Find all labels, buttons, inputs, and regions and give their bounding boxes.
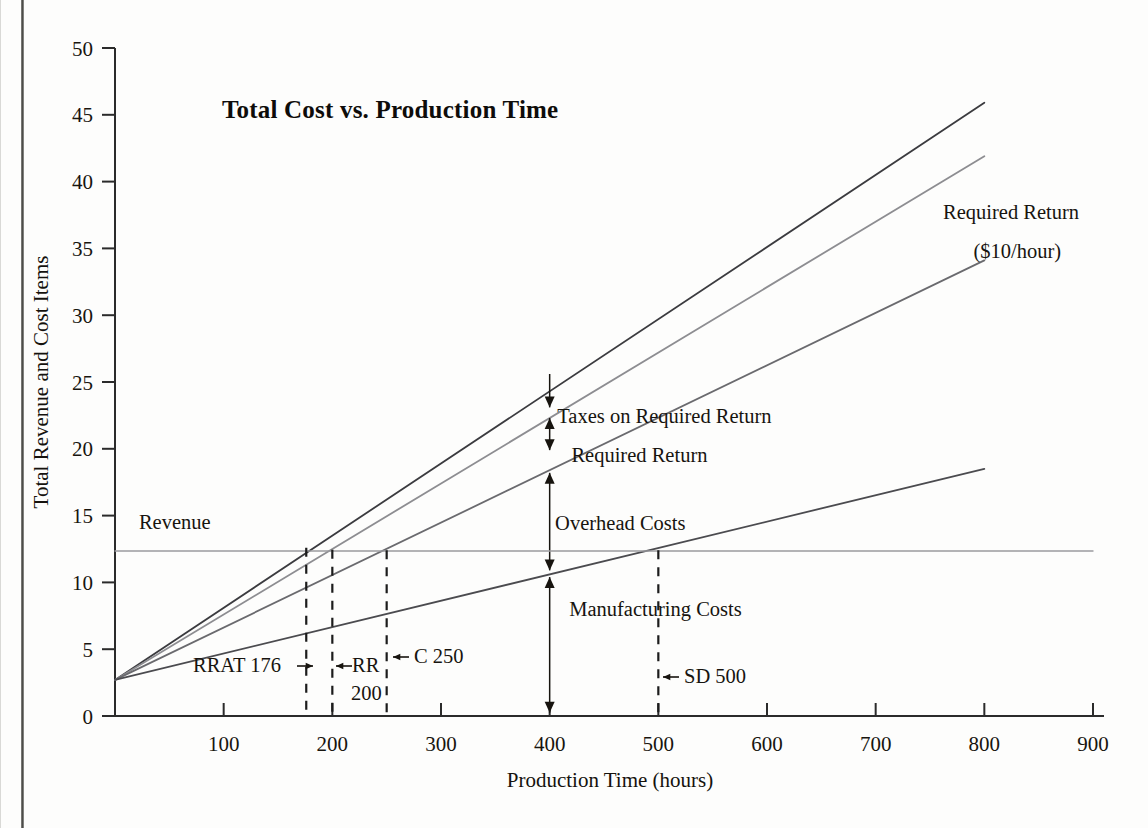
annotation-required-return-line: Required Return xyxy=(943,201,1079,224)
x-axis-title: Production Time (hours) xyxy=(507,768,714,792)
chart-title: Total Cost vs. Production Time xyxy=(222,96,558,123)
x-axis-tick-labels: 100200300400500600700800900 xyxy=(208,732,1109,756)
data-series-lines xyxy=(115,103,1093,680)
y-axis-tick-labels: 05101520253035404550 xyxy=(72,37,93,729)
arrow-rrat-176 xyxy=(297,663,313,670)
y-tick-label: 20 xyxy=(72,437,93,461)
x-tick-label: 400 xyxy=(534,732,566,756)
label-sd-500: SD 500 xyxy=(684,665,746,687)
arrow-taxes-on-required-return xyxy=(545,374,555,407)
label-rr-200-line1: RR xyxy=(352,654,380,676)
arrow-manufacturing-costs xyxy=(545,577,555,713)
x-tick-label: 600 xyxy=(751,732,783,756)
label-rrat-176: RRAT 176 xyxy=(193,654,281,676)
marker-pointer-arrows: RRAT 176RR200C 250SD 500 xyxy=(193,645,746,704)
y-axis-ticks xyxy=(102,48,115,716)
annotation-manufacturing-costs: Manufacturing Costs xyxy=(569,598,742,621)
y-axis-title: Total Revenue and Cost Items xyxy=(29,256,53,509)
y-tick-label: 5 xyxy=(83,638,94,662)
figure-page: 05101520253035404550 1002003004005006007… xyxy=(0,0,1148,828)
chart-annotations: RevenueOverhead CostsTaxes on Required R… xyxy=(139,201,1079,621)
arrow-c-250 xyxy=(393,654,409,661)
x-tick-label: 200 xyxy=(317,732,349,756)
y-tick-label: 15 xyxy=(72,504,93,528)
arrow-rr-200 xyxy=(336,663,352,670)
x-tick-label: 900 xyxy=(1077,732,1109,756)
x-tick-label: 500 xyxy=(643,732,675,756)
y-tick-label: 0 xyxy=(83,705,94,729)
arrow-sd-500 xyxy=(663,674,679,681)
x-tick-label: 700 xyxy=(860,732,892,756)
x-tick-label: 800 xyxy=(969,732,1001,756)
annotation-required-return-rate: ($10/hour) xyxy=(973,240,1061,263)
y-tick-label: 50 xyxy=(72,37,93,61)
arrow-overhead-bottom xyxy=(545,552,555,571)
y-tick-label: 40 xyxy=(72,170,93,194)
y-tick-label: 45 xyxy=(72,103,93,127)
y-tick-label: 35 xyxy=(72,237,93,261)
annotation-taxes-on-required-return: Taxes on Required Return xyxy=(557,405,771,428)
y-tick-label: 30 xyxy=(72,304,93,328)
annotation-revenue: Revenue xyxy=(139,511,211,533)
chart-canvas: 05101520253035404550 1002003004005006007… xyxy=(0,0,1148,828)
label-c-250: C 250 xyxy=(414,645,464,667)
arrow-overhead-top xyxy=(545,473,555,550)
annotation-required-return-band: Required Return xyxy=(571,444,707,467)
annotation-overhead-costs: Overhead Costs xyxy=(555,512,685,534)
y-tick-label: 10 xyxy=(72,571,93,595)
y-tick-label: 25 xyxy=(72,371,93,395)
cost-breakdown-arrow xyxy=(545,374,555,713)
arrow-required-return-band xyxy=(545,418,555,450)
label-rr-200-line2: 200 xyxy=(351,682,382,704)
x-tick-label: 300 xyxy=(425,732,457,756)
x-tick-label: 100 xyxy=(208,732,240,756)
